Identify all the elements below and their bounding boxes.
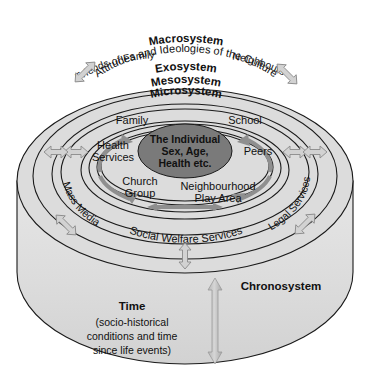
label-peers: Peers	[244, 145, 273, 157]
time-detail-line1: (socio-historical	[96, 316, 169, 328]
label-church-line1: Church	[122, 175, 157, 187]
ring-titles: Macrosystem Attitudes and Ideologies of …	[92, 32, 280, 100]
label-play-area-line2: Play Area	[194, 192, 242, 204]
label-health-services-line1: Health	[97, 139, 129, 151]
label-family: Family	[116, 114, 149, 126]
the-individual-core: The Individual Sex, Age, Health etc.	[138, 124, 232, 178]
individual-line-1: The Individual	[150, 133, 221, 145]
exosystem-title: Exosystem	[154, 60, 218, 75]
chronosystem-title: Chronosystem	[241, 280, 322, 292]
individual-line-3: Health etc.	[158, 157, 211, 169]
label-friends-of-family: Friends of Family	[73, 48, 156, 83]
label-neighbours: Neighbours	[232, 50, 288, 78]
diagram-canvas: The Individual Sex, Age, Health etc. Fam…	[0, 0, 371, 386]
time-detail-line2: conditions and time	[87, 330, 178, 342]
individual-line-2: Sex, Age,	[162, 145, 209, 157]
time-detail-line3: since life events)	[93, 344, 171, 356]
time-label: Time	[119, 300, 146, 312]
label-school: School	[228, 114, 262, 126]
label-church-line2: Group	[125, 187, 156, 199]
ecological-systems-diagram: The Individual Sex, Age, Health etc. Fam…	[0, 0, 371, 386]
label-health-services-line2: Services	[92, 151, 135, 163]
label-play-area-line1: Neighbourhood	[180, 180, 255, 192]
